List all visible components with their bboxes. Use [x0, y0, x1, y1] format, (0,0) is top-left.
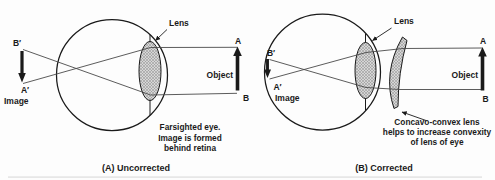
point-b-prime-label-b: B′	[267, 48, 275, 58]
point-a-prime-label-b: A′	[273, 82, 281, 92]
point-b-prime-label-a: B′	[13, 38, 21, 48]
object-label-b: Object	[452, 70, 479, 80]
note-b-line1: Concavo-convex lens	[394, 117, 480, 127]
object-label-a: Object	[207, 70, 234, 80]
scan-artifact-line	[8, 176, 482, 177]
caption-a: (A) Uncorrected	[102, 163, 170, 173]
lens-label-a: Lens	[169, 18, 189, 28]
note-a-line1: Farsighted eye.	[160, 122, 221, 132]
background	[0, 0, 495, 180]
image-label-a: Image	[4, 96, 29, 106]
point-a-prime-label-a: A′	[21, 85, 29, 95]
lens-label-b: Lens	[394, 16, 414, 26]
note-b-line2: helps to increase convexity	[383, 127, 492, 137]
caption-b: (B) Corrected	[355, 163, 413, 173]
point-a-label-b: A	[480, 36, 486, 46]
optics-diagram: Lens A B Object B′ A′ Image Farsighted e…	[0, 0, 495, 180]
figure-canvas: Lens A B Object B′ A′ Image Farsighted e…	[0, 0, 495, 180]
eye-lens-b	[355, 43, 376, 99]
point-a-label-a: A	[235, 36, 241, 46]
image-label-b: Image	[275, 93, 300, 103]
note-b-line3: of lens of eye	[410, 137, 463, 147]
point-b-label-a: B	[243, 93, 249, 103]
point-b-label-b: B	[482, 94, 488, 104]
note-a-line3: behind retina	[164, 143, 216, 153]
note-a-line2: Image is formed	[158, 133, 222, 143]
